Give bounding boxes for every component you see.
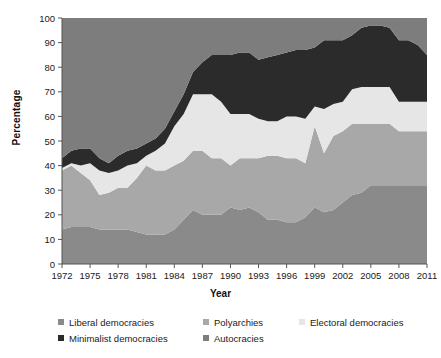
x-tick-label: 2005 [360,270,381,281]
y-tick-label: 60 [44,111,55,122]
legend-swatch-icon [58,335,64,341]
x-tick-label: 2011 [417,270,437,281]
x-tick-label: 1996 [276,270,297,281]
legend-item-electoral-democracies[interactable]: Electoral democracies [299,317,403,328]
x-tick-label: 2002 [332,270,353,281]
x-tick-label: 1975 [80,270,101,281]
y-tick-label: 30 [44,185,55,196]
legend-label: Electoral democracies [310,317,403,328]
chart-legend: Liberal democraciesPolyarchiesElectoral … [58,314,438,346]
x-tick-label: 1987 [192,270,213,281]
legend-label: Autocracies [214,333,264,344]
legend-row: Liberal democraciesPolyarchiesElectoral … [58,314,438,330]
stacked-area-chart: Percentage Year 010203040506070809010019… [0,0,441,358]
y-tick-label: 50 [44,136,55,147]
x-tick-label: 1984 [164,270,185,281]
legend-row: Minimalist democraciesAutocracies [58,330,438,346]
legend-label: Liberal democracies [69,317,154,328]
legend-item-polyarchies[interactable]: Polyarchies [203,317,299,328]
x-tick-label: 1990 [220,270,241,281]
x-tick-label: 1999 [304,270,325,281]
legend-label: Polyarchies [214,317,263,328]
legend-item-autocracies[interactable]: Autocracies [203,333,299,344]
plot-area: 0102030405060708090100197219751978198119… [0,0,441,300]
y-tick-label: 90 [44,37,55,48]
y-tick-label: 70 [44,86,55,97]
legend-label: Minimalist democracies [69,333,168,344]
legend-swatch-icon [299,319,305,325]
x-tick-label: 1972 [51,270,72,281]
legend-swatch-icon [203,319,209,325]
y-tick-label: 20 [44,209,55,220]
legend-item-minimalist-democracies[interactable]: Minimalist democracies [58,333,203,344]
legend-swatch-icon [58,319,64,325]
y-tick-label: 10 [44,234,55,245]
y-tick-label: 80 [44,62,55,73]
y-tick-label: 100 [39,13,55,24]
y-tick-label: 0 [50,259,55,270]
x-tick-label: 1981 [136,270,157,281]
x-tick-label: 1978 [108,270,129,281]
legend-item-liberal-democracies[interactable]: Liberal democracies [58,317,203,328]
x-tick-label: 1993 [248,270,269,281]
y-tick-label: 40 [44,160,55,171]
legend-swatch-icon [203,335,209,341]
x-tick-label: 2008 [388,270,409,281]
